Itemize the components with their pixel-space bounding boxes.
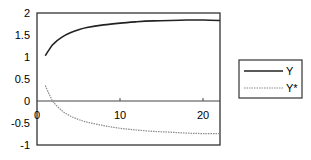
legend-label-ystar: Y* <box>286 82 298 94</box>
legend-label-y: Y <box>286 65 294 77</box>
x-tick-label: 0 <box>34 109 40 121</box>
y-tick-label: 1.5 <box>15 29 30 41</box>
y-tick-label: 0.5 <box>15 73 30 85</box>
x-tick-label: 20 <box>197 109 209 121</box>
y-tick-label: 2 <box>24 7 30 19</box>
y-tick-label: -1 <box>20 139 30 151</box>
line-chart: 2 1.5 1 0.5 0 -0.5 -1 0 10 20 Y Y* <box>0 0 311 160</box>
legend: Y Y* <box>239 60 302 98</box>
y-tick-label: 0 <box>24 95 30 107</box>
y-tick-label: 1 <box>24 51 30 63</box>
plot-area <box>37 13 220 145</box>
x-tick-label: 10 <box>114 109 126 121</box>
y-axis-labels: 2 1.5 1 0.5 0 -0.5 -1 <box>11 7 30 151</box>
y-tick-label: -0.5 <box>11 117 30 129</box>
